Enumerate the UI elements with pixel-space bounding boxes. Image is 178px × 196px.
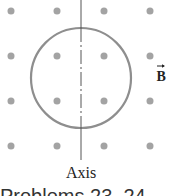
field-dot <box>8 8 15 15</box>
field-dot <box>101 143 108 150</box>
field-dot <box>101 98 108 105</box>
field-dot <box>147 98 154 105</box>
magnetic-field-diagram: B Axis Problems 23, 24 <box>0 0 178 196</box>
field-symbol: B <box>157 69 166 84</box>
field-dot <box>147 53 154 60</box>
field-dot <box>101 8 108 15</box>
field-dot <box>8 53 15 60</box>
figure-caption: Problems 23, 24 <box>0 185 146 196</box>
field-dot <box>54 8 61 15</box>
field-label: B <box>157 64 166 84</box>
field-dot <box>147 143 154 150</box>
field-dot <box>101 53 108 60</box>
field-dot <box>8 143 15 150</box>
field-dot <box>54 53 61 60</box>
field-dot <box>54 143 61 150</box>
axis-label: Axis <box>66 164 96 181</box>
field-dot <box>54 98 61 105</box>
field-dot <box>8 98 15 105</box>
field-dot <box>147 8 154 15</box>
